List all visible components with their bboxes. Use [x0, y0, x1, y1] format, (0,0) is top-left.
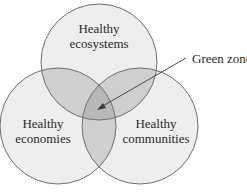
label-economies-line2: economies: [15, 131, 71, 146]
label-economies-line1: Healthy: [22, 116, 64, 131]
green-zone-label: Green zone: [192, 51, 247, 66]
label-ecosystems-line2: ecosystems: [69, 36, 128, 51]
label-communities-line2: communities: [122, 131, 189, 146]
label-ecosystems-line1: Healthy: [78, 21, 120, 36]
venn-diagram: Healthy ecosystems Healthy economies Hea…: [0, 0, 247, 194]
label-communities-line1: Healthy: [135, 116, 177, 131]
